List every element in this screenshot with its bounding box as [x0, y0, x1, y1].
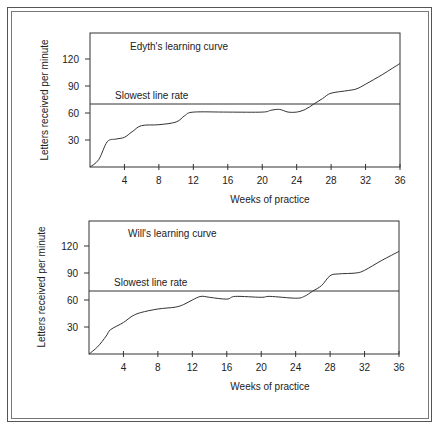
- x-tick-label: 20: [257, 175, 269, 186]
- x-tick-label: 12: [188, 175, 200, 186]
- x-tick-label: 24: [290, 362, 302, 373]
- x-tick-label: 36: [393, 362, 405, 373]
- chart-title: Will's learning curve: [128, 228, 217, 239]
- x-tick-label: 4: [122, 175, 128, 186]
- x-tick-label: 36: [394, 175, 406, 186]
- reference-line-label: Slowest line rate: [115, 90, 189, 101]
- x-tick-label: 8: [155, 362, 161, 373]
- x-tick-label: 32: [360, 175, 372, 186]
- axis-ticks: 4812162024283236306090120: [61, 241, 405, 373]
- y-tick-label: 60: [67, 295, 79, 306]
- x-tick-label: 8: [156, 175, 162, 186]
- y-tick-label: 30: [67, 322, 79, 333]
- y-axis-label: Letters received per minute: [39, 39, 50, 161]
- reference-line-label: Slowest line rate: [114, 277, 188, 288]
- x-tick-label: 16: [222, 175, 234, 186]
- y-tick-label: 90: [68, 81, 80, 92]
- x-tick-label: 24: [291, 175, 303, 186]
- x-tick-label: 20: [256, 362, 268, 373]
- y-tick-label: 120: [62, 54, 79, 65]
- will-chart: Will's learning curve Slowest line rate …: [36, 221, 405, 392]
- edyth-curve: [90, 64, 400, 168]
- x-axis-label: Weeks of practice: [230, 381, 310, 392]
- x-tick-label: 28: [326, 175, 338, 186]
- x-axis-label: Weeks of practice: [230, 194, 310, 205]
- charts-canvas: Edyth's learning curve Slowest line rate…: [0, 0, 437, 427]
- y-tick-label: 120: [61, 241, 78, 252]
- x-tick-label: 4: [121, 362, 127, 373]
- will-curve: [89, 251, 399, 354]
- y-tick-label: 60: [68, 108, 80, 119]
- x-tick-label: 16: [221, 362, 233, 373]
- x-tick-label: 28: [325, 362, 337, 373]
- edyth-chart: Edyth's learning curve Slowest line rate…: [39, 33, 406, 205]
- chart-title: Edyth's learning curve: [130, 41, 229, 52]
- x-tick-label: 32: [359, 362, 371, 373]
- y-tick-label: 90: [67, 268, 79, 279]
- x-tick-label: 12: [187, 362, 199, 373]
- y-axis-label: Letters received per minute: [36, 226, 47, 348]
- y-tick-label: 30: [68, 135, 80, 146]
- axis-ticks: 4812162024283236306090120: [62, 54, 406, 186]
